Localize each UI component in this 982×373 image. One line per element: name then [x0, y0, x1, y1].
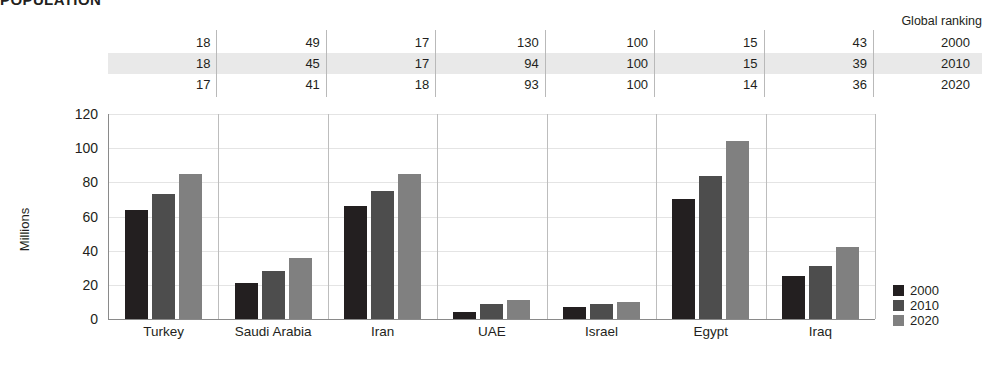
legend-item[interactable]: 2000 [893, 283, 939, 298]
y-axis-tick-label: 100 [48, 140, 98, 156]
ranking-row-year: 2020 [874, 74, 970, 95]
bar-group: UAE [437, 114, 546, 319]
y-axis-tick-label: 0 [48, 311, 98, 327]
ranking-row-year: 2000 [874, 32, 970, 53]
bar [809, 266, 832, 319]
bar [262, 271, 285, 319]
bar [371, 191, 394, 319]
bar-group: Israel [547, 114, 656, 319]
x-axis-category-label: Iraq [766, 324, 875, 339]
y-axis-tick-label: 80 [48, 174, 98, 190]
global-ranking-header: Global ranking [886, 14, 982, 28]
ranking-row: 18491713010015432000 [108, 32, 982, 53]
ranking-cell: 43 [765, 32, 874, 53]
bar [125, 210, 148, 319]
legend-item-label: 2010 [910, 298, 939, 313]
ranking-cell: 36 [765, 74, 874, 95]
bar [480, 304, 503, 319]
y-axis-tick-label: 60 [48, 209, 98, 225]
bar [507, 300, 530, 319]
bar [344, 206, 367, 319]
ranking-cell: 49 [217, 32, 326, 53]
ranking-cell: 94 [436, 53, 545, 74]
bar-group: Saudi Arabia [218, 114, 327, 319]
ranking-cell: 18 [108, 32, 217, 53]
ranking-cell: 17 [327, 32, 436, 53]
ranking-cell: 18 [108, 53, 217, 74]
ranking-cell: 17 [327, 53, 436, 74]
x-axis-category-label: Saudi Arabia [218, 324, 327, 339]
x-axis-category-label: Turkey [109, 324, 218, 339]
x-axis-category-label: UAE [437, 324, 546, 339]
legend-item[interactable]: 2010 [893, 298, 939, 313]
bar [672, 199, 695, 319]
bar [617, 302, 640, 319]
ranking-cell: 17 [108, 74, 217, 95]
group-divider [875, 114, 876, 319]
bar [563, 307, 586, 319]
bar-group: Turkey [109, 114, 218, 319]
page-title: POPULATION [0, 0, 101, 8]
ranking-cell: 15 [655, 53, 764, 74]
ranking-cell: 100 [546, 74, 655, 95]
legend-item-label: 2020 [910, 313, 939, 328]
chart-area: Millions 020406080100120 TurkeySaudi Ara… [0, 104, 982, 373]
plot-region: TurkeySaudi ArabiaIranUAEIsraelEgyptIraq [108, 114, 875, 320]
ranking-cell: 100 [546, 32, 655, 53]
legend-item[interactable]: 2020 [893, 313, 939, 328]
ranking-cell: 14 [655, 74, 764, 95]
y-axis-tick-label: 40 [48, 243, 98, 259]
bar [590, 304, 613, 319]
global-ranking-table: Global ranking 1849171301001543200018451… [108, 14, 982, 96]
bar [289, 258, 312, 320]
x-axis-category-label: Israel [547, 324, 656, 339]
y-axis-tick-label: 120 [48, 106, 98, 122]
x-axis-category-label: Egypt [656, 324, 765, 339]
legend-swatch-icon [893, 300, 904, 311]
bar [699, 176, 722, 320]
x-axis-category-label: Iran [328, 324, 437, 339]
y-axis-tick-label: 20 [48, 277, 98, 293]
bar-group: Iran [328, 114, 437, 319]
legend-swatch-icon [893, 285, 904, 296]
ranking-cell: 41 [217, 74, 326, 95]
ranking-row: 1845179410015392010 [108, 53, 982, 74]
ranking-row-year: 2010 [874, 53, 970, 74]
bar-group: Egypt [656, 114, 765, 319]
bar [453, 312, 476, 319]
legend-item-label: 2000 [910, 283, 939, 298]
bar-group: Iraq [766, 114, 875, 319]
bar [235, 283, 258, 319]
ranking-cell: 93 [436, 74, 545, 95]
bar [179, 174, 202, 319]
bar [782, 276, 805, 319]
legend: 200020102020 [893, 283, 939, 328]
ranking-cell: 39 [765, 53, 874, 74]
legend-swatch-icon [893, 315, 904, 326]
bar [726, 141, 749, 319]
bar [152, 194, 175, 319]
ranking-cell: 18 [327, 74, 436, 95]
ranking-cell: 130 [436, 32, 545, 53]
ranking-cell: 100 [546, 53, 655, 74]
bar [398, 174, 421, 319]
bar [836, 247, 859, 319]
ranking-row: 1741189310014362020 [108, 74, 982, 95]
y-axis-label: Millions [17, 160, 32, 300]
ranking-cell: 15 [655, 32, 764, 53]
ranking-cell: 45 [217, 53, 326, 74]
